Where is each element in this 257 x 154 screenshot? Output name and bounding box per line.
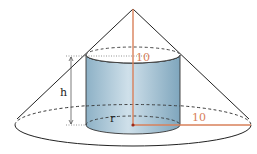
h-label: h (60, 86, 67, 99)
r-label: r (110, 112, 116, 125)
cone-radius-label: 10 (192, 111, 206, 124)
cone-cylinder-diagram: h r 10 10 (0, 0, 257, 154)
base-center-dot (131, 123, 134, 126)
cone-height-label: 10 (136, 51, 150, 64)
